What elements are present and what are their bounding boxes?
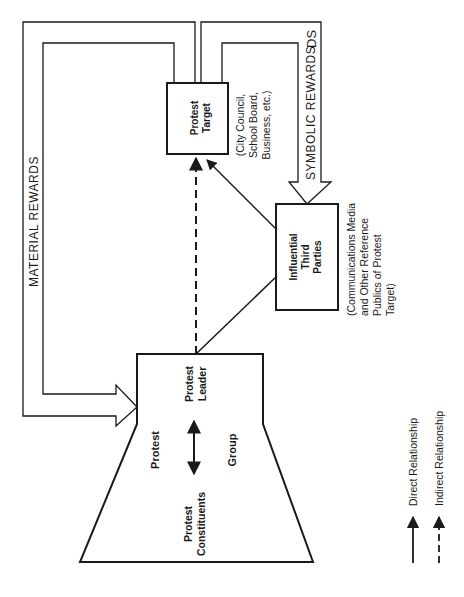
third-parties-to-target-line (207, 160, 277, 230)
third-parties-label-3: Parties (312, 240, 323, 274)
material-rewards-label: MATERIAL REWARDS (27, 156, 41, 287)
group-to-third-parties-line (196, 276, 277, 354)
legend-indirect-label: Indirect Relationship (433, 411, 445, 506)
legend-direct-label: Direct Relationship (407, 418, 419, 506)
target-note-1: (City Council, (234, 94, 246, 156)
legend: Direct Relationship Indirect Relationshi… (407, 411, 445, 563)
protest-constituents-label-1: Protest (182, 505, 194, 542)
third-parties-note-3: Publics of Protest (371, 234, 383, 316)
third-parties-label-2: Third (300, 245, 311, 270)
target-note-2: School Board, (247, 92, 259, 158)
protest-target-label-2: Target (201, 102, 212, 132)
protest-constituents-label-2: Constituents (195, 492, 207, 556)
third-parties-note-4: Target) (384, 283, 396, 316)
protest-group-group-label: Group (226, 433, 238, 466)
third-parties-note-2: and Other Reference (358, 218, 370, 316)
target-note-3: Business, etc.) (260, 91, 272, 160)
protest-group-protest-label: Protest (149, 431, 161, 469)
third-parties-label-1: Influential (288, 233, 299, 280)
symbolic-rewards-label: SYMBOLIC REWARDS (304, 46, 318, 180)
ds-mark: DS (304, 30, 319, 48)
protest-diagram: MATERIAL REWARDS SYMBOLIC REWARDS DS Pro… (0, 0, 464, 597)
protest-target-label-1: Protest (189, 100, 200, 135)
third-parties-note-1: (Communications Media (345, 203, 357, 316)
protest-leader-label-2: Leader (196, 367, 208, 401)
protest-leader-label-1: Protest (183, 365, 195, 402)
